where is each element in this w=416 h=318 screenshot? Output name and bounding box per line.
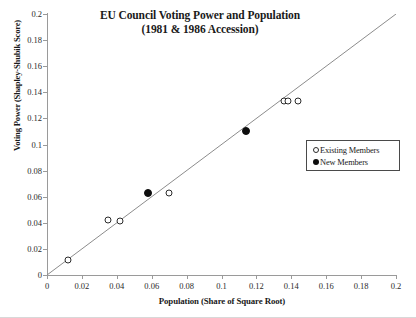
x-tick-label: 0.2 <box>391 281 402 291</box>
x-tick-mark <box>326 275 327 279</box>
y-tick-mark <box>43 66 47 67</box>
x-tick-label: 0.14 <box>284 281 299 291</box>
x-tick-mark <box>256 275 257 279</box>
y-tick-label: 0.18 <box>27 35 42 45</box>
x-tick-label: 0.04 <box>109 281 124 291</box>
data-point-new-member <box>242 127 250 135</box>
y-tick-label: 0.04 <box>27 218 42 228</box>
x-tick-mark <box>82 275 83 279</box>
y-tick-mark <box>43 118 47 119</box>
y-tick-mark <box>43 14 47 15</box>
data-point-existing-member <box>166 189 173 196</box>
x-tick-label: 0.18 <box>354 281 369 291</box>
x-tick-mark <box>361 275 362 279</box>
data-point-new-member <box>144 189 152 197</box>
y-tick-label: 0.1 <box>31 140 42 150</box>
x-axis-title: Population (Share of Square Root) <box>47 296 397 306</box>
data-point-existing-member <box>117 218 124 225</box>
x-tick-mark <box>47 275 48 279</box>
y-tick-label: 0.02 <box>27 244 42 254</box>
y-tick-label: 0.08 <box>27 166 42 176</box>
y-tick-mark <box>43 223 47 224</box>
y-tick-label: 0.12 <box>27 113 42 123</box>
legend-label-new-members: New Members <box>320 158 368 167</box>
y-tick-mark <box>43 40 47 41</box>
x-tick-label: 0.08 <box>179 281 194 291</box>
x-tick-label: 0 <box>45 281 49 291</box>
legend-item-new-members: New Members <box>311 156 395 168</box>
y-tick-mark <box>43 249 47 250</box>
y-tick-label: 0.2 <box>31 9 42 19</box>
y-tick-label: 0 <box>38 270 42 280</box>
x-tick-label: 0.02 <box>74 281 89 291</box>
y-tick-mark <box>43 145 47 146</box>
y-tick-mark <box>43 197 47 198</box>
x-tick-mark <box>396 275 397 279</box>
filled-circle-icon <box>311 159 320 165</box>
x-tick-mark <box>187 275 188 279</box>
y-axis-title: Voting Power (Shapley-Shubik Score) <box>12 0 26 216</box>
legend-item-existing-members: Existing Members <box>311 144 395 156</box>
y-tick-mark <box>43 92 47 93</box>
y-tick-mark <box>43 171 47 172</box>
y-tick-label: 0.06 <box>27 192 42 202</box>
x-tick-label: 0.16 <box>319 281 334 291</box>
y-tick-label: 0.16 <box>27 61 42 71</box>
chart-legend: Existing Members New Members <box>306 140 400 171</box>
x-tick-mark <box>152 275 153 279</box>
data-point-existing-member <box>64 256 71 263</box>
x-tick-mark <box>291 275 292 279</box>
x-tick-label: 0.12 <box>249 281 264 291</box>
x-tick-label: 0.1 <box>216 281 227 291</box>
x-tick-mark <box>117 275 118 279</box>
x-tick-label: 0.06 <box>144 281 159 291</box>
data-point-existing-member <box>295 98 302 105</box>
y-tick-label: 0.14 <box>27 87 42 97</box>
data-point-existing-member <box>105 217 112 224</box>
legend-label-existing-members: Existing Members <box>320 146 379 155</box>
x-tick-mark <box>222 275 223 279</box>
chart-figure: EU Council Voting Power and Population (… <box>0 0 416 318</box>
open-circle-icon <box>311 147 320 153</box>
data-point-existing-member <box>284 98 291 105</box>
